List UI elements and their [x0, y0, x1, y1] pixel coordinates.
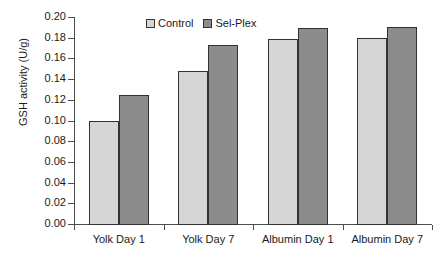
y-tick-label: 0.18: [24, 32, 66, 43]
bar-yolk-day-7-sel-plex: [208, 45, 238, 225]
y-tick-label: 0.08: [24, 135, 66, 146]
y-tick-label-text: 0.12: [28, 94, 66, 105]
legend-label-control: Control: [158, 18, 193, 29]
y-tick-label: 0.16: [24, 52, 66, 63]
y-tick-label: 0.12: [24, 94, 66, 105]
x-tick-mark: [164, 225, 165, 230]
bar-albumin-day-7-control: [357, 38, 387, 225]
y-tick-label-text: 0.20: [28, 11, 66, 22]
y-tick-label: 0.20: [24, 11, 66, 22]
x-category-label: Albumin Day 7: [343, 233, 433, 246]
gsh-activity-bar-chart: GSH activity (U/g) 0.000.020.040.060.080…: [0, 0, 442, 264]
bar-yolk-day-1-control: [89, 121, 119, 226]
chart-legend: Control Sel-Plex: [146, 18, 256, 29]
y-tick-label-text: 0.06: [28, 156, 66, 167]
x-tick-mark: [343, 225, 344, 230]
legend-entry-control: Control: [146, 18, 193, 29]
y-tick-label-text: 0.04: [28, 177, 66, 188]
y-tick-label-text: 0.10: [28, 115, 66, 126]
bar-yolk-day-7-control: [178, 71, 208, 225]
legend-swatch-selplex-icon: [203, 19, 212, 28]
bar-albumin-day-1-control: [268, 39, 298, 225]
plot-area: [74, 17, 432, 224]
y-tick-label: 0.10: [24, 115, 66, 126]
y-tick-label: 0.02: [24, 197, 66, 208]
x-tick-mark: [432, 225, 433, 230]
y-tick-label: 0.00: [24, 218, 66, 229]
y-tick-label-text: 0.18: [28, 32, 66, 43]
y-tick-label: 0.04: [24, 177, 66, 188]
y-axis-title: GSH activity (U/g): [14, 0, 32, 182]
legend-entry-selplex: Sel-Plex: [203, 18, 256, 29]
bar-albumin-day-1-sel-plex: [298, 28, 328, 225]
y-tick-label-text: 0.16: [28, 52, 66, 63]
x-tick-mark: [253, 225, 254, 230]
y-tick-label: 0.06: [24, 156, 66, 167]
x-tick-mark: [74, 225, 75, 230]
bar-albumin-day-7-sel-plex: [387, 27, 417, 225]
x-category-label: Yolk Day 1: [74, 233, 164, 246]
y-tick-label-text: 0.08: [28, 135, 66, 146]
x-category-label: Yolk Day 7: [164, 233, 254, 246]
bar-yolk-day-1-sel-plex: [119, 95, 149, 225]
y-tick-label: 0.14: [24, 73, 66, 84]
legend-label-selplex: Sel-Plex: [215, 18, 256, 29]
legend-swatch-control-icon: [146, 19, 155, 28]
y-tick-label-text: 0.00: [28, 218, 66, 229]
x-category-label: Albumin Day 1: [253, 233, 343, 246]
y-tick-label-text: 0.14: [28, 73, 66, 84]
y-tick-label-text: 0.02: [28, 197, 66, 208]
